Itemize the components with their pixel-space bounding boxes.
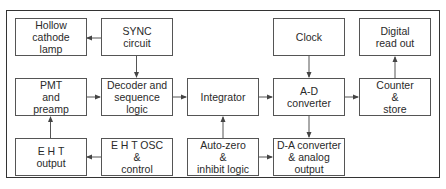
block-label: inhibit logic [197, 163, 249, 175]
block-label: PMT [40, 79, 62, 91]
block-label: Integrator [201, 91, 246, 103]
block-label: Clock [296, 31, 322, 43]
block-da-converter-analog-output: D-A converter & analog output [273, 138, 345, 176]
block-digital-read-out: Digital read out [359, 18, 431, 56]
block-eht-osc-control: E H T OSC & control [101, 138, 173, 176]
block-counter-store: Counter & store [359, 78, 431, 116]
block-hollow-cathode-lamp: Hollow cathode lamp [15, 18, 87, 56]
block-label: & [391, 91, 398, 103]
block-label: output [294, 163, 323, 175]
block-label: sequence [114, 91, 160, 103]
block-sync-circuit: SYNC circuit [101, 18, 173, 56]
block-label: preamp [33, 103, 69, 115]
block-label: Auto-zero [200, 139, 246, 151]
block-label: SYNC [122, 25, 151, 37]
block-clock: Clock [273, 18, 345, 56]
block-decoder-sequence-logic: Decoder and sequence logic [101, 78, 173, 116]
block-label: read out [376, 37, 415, 49]
block-label: store [383, 103, 406, 115]
block-label: logic [126, 103, 148, 115]
block-ad-converter: A-D converter [273, 78, 345, 116]
block-label: lamp [40, 43, 63, 55]
block-pmt-preamp: PMT and preamp [15, 78, 87, 116]
block-label: circuit [123, 37, 150, 49]
block-label: Counter [376, 79, 413, 91]
block-label: converter [287, 97, 331, 109]
block-label: & [219, 151, 226, 163]
block-auto-zero-inhibit-logic: Auto-zero & inhibit logic [187, 138, 259, 176]
block-label: & [133, 151, 140, 163]
block-label: & analog [288, 151, 329, 163]
block-label: Digital [380, 25, 409, 37]
block-label: and [42, 91, 60, 103]
block-label: control [121, 163, 153, 175]
block-eht-output: E H T output [15, 138, 87, 176]
block-integrator: Integrator [187, 78, 259, 116]
block-label: E H T [38, 145, 65, 157]
block-label: E H T OSC [111, 139, 163, 151]
block-label: output [36, 157, 65, 169]
block-label: cathode [32, 31, 69, 43]
block-label: Decoder and [107, 79, 167, 91]
block-label: D-A converter [277, 139, 341, 151]
block-label: A-D [300, 85, 318, 97]
block-label: Hollow [35, 19, 67, 31]
